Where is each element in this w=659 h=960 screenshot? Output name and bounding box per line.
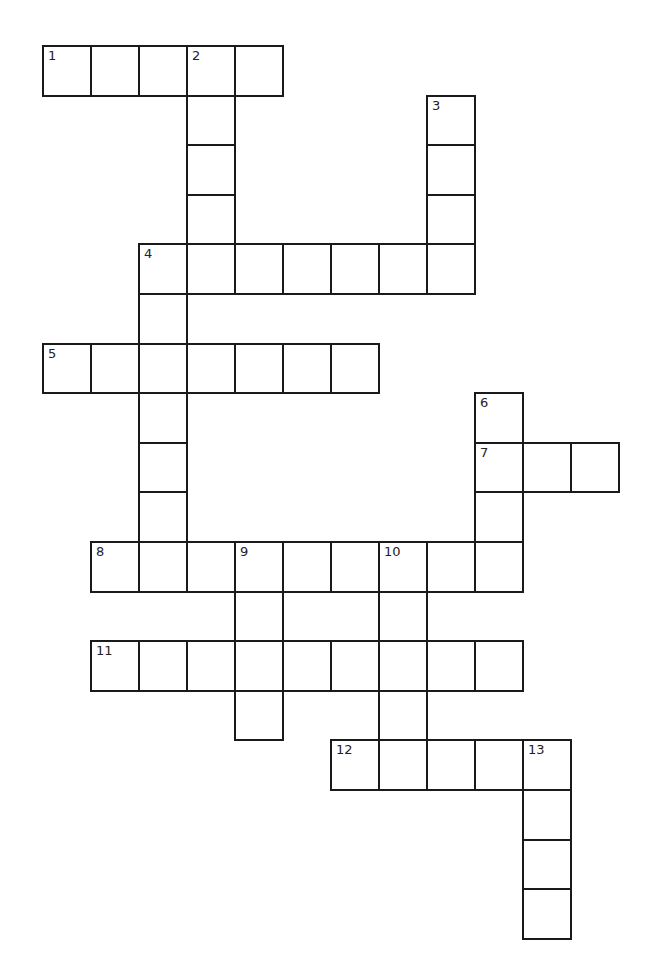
crossword-cell[interactable] (90, 45, 140, 97)
crossword-cell[interactable]: 1 (42, 45, 92, 97)
crossword-cell[interactable]: 7 (474, 442, 524, 494)
crossword-cell[interactable]: 12 (330, 739, 380, 791)
crossword-cell[interactable] (138, 343, 188, 395)
crossword-cell[interactable] (426, 144, 476, 196)
crossword-cell[interactable] (474, 640, 524, 692)
crossword-cell[interactable]: 13 (522, 739, 572, 791)
crossword-cell[interactable] (522, 839, 572, 891)
crossword-cell[interactable] (330, 640, 380, 692)
clue-number: 2 (192, 49, 200, 62)
crossword-cell[interactable] (474, 541, 524, 593)
crossword-cell[interactable] (282, 343, 332, 395)
crossword-cell[interactable]: 5 (42, 343, 92, 395)
clue-number: 9 (240, 545, 248, 558)
crossword-cell[interactable] (426, 640, 476, 692)
crossword-cell[interactable] (186, 144, 236, 196)
crossword-cell[interactable]: 9 (234, 541, 284, 593)
clue-number: 10 (384, 545, 401, 558)
crossword-cell[interactable] (138, 293, 188, 345)
clue-number: 13 (528, 743, 545, 756)
crossword-cell[interactable] (186, 640, 236, 692)
crossword-cell[interactable] (234, 343, 284, 395)
clue-number: 8 (96, 545, 104, 558)
crossword-cell[interactable] (138, 392, 188, 444)
crossword-cell[interactable] (522, 888, 572, 940)
crossword-cell[interactable] (426, 541, 476, 593)
crossword-cell[interactable]: 6 (474, 392, 524, 444)
crossword-cell[interactable] (234, 243, 284, 295)
crossword-cell[interactable]: 3 (426, 95, 476, 147)
crossword-cell[interactable]: 2 (186, 45, 236, 97)
crossword-cell[interactable] (378, 690, 428, 742)
crossword-cell[interactable] (426, 194, 476, 246)
clue-number: 6 (480, 396, 488, 409)
crossword-cell[interactable] (138, 640, 188, 692)
clue-number: 3 (432, 99, 440, 112)
crossword-cell[interactable] (378, 243, 428, 295)
crossword-cell[interactable] (330, 343, 380, 395)
crossword-cell[interactable] (426, 739, 476, 791)
crossword-cell[interactable] (330, 541, 380, 593)
crossword-cell[interactable] (282, 243, 332, 295)
crossword-cell[interactable] (234, 591, 284, 643)
crossword-cell[interactable] (138, 491, 188, 543)
crossword-cell[interactable] (330, 243, 380, 295)
crossword-cell[interactable] (234, 45, 284, 97)
clue-number: 7 (480, 446, 488, 459)
crossword-cell[interactable] (186, 541, 236, 593)
crossword-cell[interactable] (234, 690, 284, 742)
crossword-cell[interactable] (186, 95, 236, 147)
clue-number: 5 (48, 347, 56, 360)
crossword-cell[interactable] (138, 442, 188, 494)
crossword-cell[interactable] (570, 442, 620, 494)
crossword-cell[interactable] (378, 591, 428, 643)
crossword-grid: 12345678910111213 (0, 0, 659, 960)
crossword-cell[interactable]: 10 (378, 541, 428, 593)
crossword-cell[interactable] (186, 194, 236, 246)
clue-number: 1 (48, 49, 56, 62)
crossword-cell[interactable] (138, 45, 188, 97)
crossword-cell[interactable] (426, 243, 476, 295)
crossword-cell[interactable] (474, 739, 524, 791)
crossword-cell[interactable]: 11 (90, 640, 140, 692)
crossword-cell[interactable] (282, 640, 332, 692)
crossword-cell[interactable] (522, 789, 572, 841)
crossword-cell[interactable]: 4 (138, 243, 188, 295)
crossword-cell[interactable] (522, 442, 572, 494)
crossword-cell[interactable] (378, 640, 428, 692)
crossword-cell[interactable] (234, 640, 284, 692)
clue-number: 12 (336, 743, 353, 756)
crossword-cell[interactable] (282, 541, 332, 593)
clue-number: 4 (144, 247, 152, 260)
crossword-cell[interactable] (138, 541, 188, 593)
clue-number: 11 (96, 644, 113, 657)
crossword-cell[interactable] (474, 491, 524, 543)
crossword-cell[interactable] (186, 243, 236, 295)
crossword-cell[interactable] (186, 343, 236, 395)
crossword-cell[interactable]: 8 (90, 541, 140, 593)
crossword-cell[interactable] (378, 739, 428, 791)
crossword-cell[interactable] (90, 343, 140, 395)
